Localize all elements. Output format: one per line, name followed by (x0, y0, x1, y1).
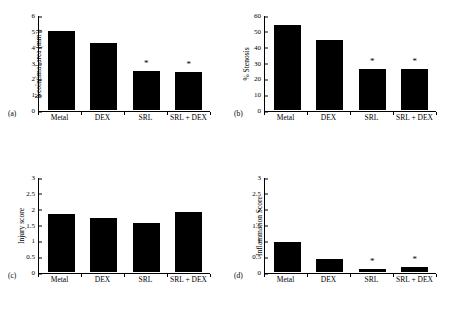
panel-a-ytick: 5 (32, 28, 40, 35)
panel-a-bar-slot: * (125, 16, 168, 110)
panel-b-xtick-label: Metal (264, 114, 307, 122)
panel-b-significance-marker: * (370, 57, 375, 66)
panel-c-plot-area: 00.511.522.53 (38, 178, 210, 274)
panel-a-ytick: 1 (32, 92, 40, 99)
panel-c-ytick: 0.5 (26, 254, 39, 261)
panel-c-ytick: 3 (32, 175, 40, 182)
panel-c-xtick-label: SRL (124, 276, 167, 284)
panel-c-bar-srl (133, 223, 160, 272)
panel-b-bar-slot: * (351, 16, 394, 110)
panel-d-ytick: 1.5 (252, 222, 265, 229)
panel-d-bar-slot (309, 178, 352, 272)
panel-a-letter: (a) (8, 110, 16, 118)
panel-d-significance-marker: * (370, 257, 375, 266)
panel-a-bar-slot (83, 16, 126, 110)
panel-b-x-tickmark (436, 112, 437, 115)
panel-c-bar-dex (90, 218, 117, 272)
panel-a-ytick: 6 (32, 13, 40, 20)
panel-a-bar-slot: * (168, 16, 211, 110)
panel-a-xtick-label: Metal (38, 114, 81, 122)
panel-a-bar-metal (48, 31, 75, 110)
panel-a-bars: ** (40, 16, 210, 110)
panel-c: Injury score 00.511.522.53 MetalDEXSRLSR… (0, 162, 226, 324)
panel-c-bar-metal (48, 214, 75, 272)
panel-d-ytick: 2.5 (252, 190, 265, 197)
panel-b-ytick: 40 (254, 44, 265, 51)
panel-a-ytick: 4 (32, 44, 40, 51)
panel-d-bar-metal (274, 242, 301, 272)
panel-b-bar-dex (316, 40, 343, 110)
panel-d-plot-area: 00.511.522.53 ** (264, 178, 436, 274)
panel-d-letter: (d) (234, 272, 243, 280)
panel-a-x-axis-labels: MetalDEXSRLSRL + DEX (38, 114, 210, 122)
panel-a-bar-srl-dex (175, 72, 202, 110)
panel-c-xtick-label: SRL + DEX (167, 276, 210, 284)
panel-b-bar-slot (309, 16, 352, 110)
panel-b-x-axis-labels: MetalDEXSRLSRL + DEX (264, 114, 436, 122)
panel-b-ylabel-wrap: % Stenosis (226, 16, 246, 112)
panel-b-bar-metal (274, 25, 301, 110)
panel-d-ytick: 3 (258, 175, 266, 182)
panel-c-ylabel-wrap: Injury score (0, 178, 20, 274)
panel-b-bar-srl-dex (401, 69, 428, 110)
panel-c-bar-slot (125, 178, 168, 272)
panel-d-bar-slot: * (351, 178, 394, 272)
panel-b-xtick-label: DEX (307, 114, 350, 122)
panel-c-xtick-label: Metal (38, 276, 81, 284)
panel-b-ytick: 50 (254, 28, 265, 35)
panel-c-bar-slot (40, 178, 83, 272)
panel-b-letter: (b) (234, 110, 243, 118)
panel-b-bars: ** (266, 16, 436, 110)
panel-b-ylabel: % Stenosis (243, 47, 251, 80)
panel-a-significance-marker: * (187, 60, 192, 69)
panel-d-bar-slot: * (394, 178, 437, 272)
panel-d-bar-srl-dex (401, 267, 428, 272)
panel-b-ytick: 10 (254, 92, 265, 99)
panel-c-letter: (c) (8, 272, 16, 280)
panel-a-bar-slot (40, 16, 83, 110)
panel-a: Neointimal area (mm²) 0123456 ** MetalDE… (0, 0, 226, 162)
panel-c-x-axis-labels: MetalDEXSRLSRL + DEX (38, 276, 210, 284)
panel-a-bar-dex (90, 43, 117, 110)
panel-d-ytick: 1 (258, 238, 266, 245)
panel-a-bar-srl (133, 71, 160, 110)
panel-c-ytick: 1 (32, 238, 40, 245)
panel-d-ytick: 0.5 (252, 254, 265, 261)
panel-b-ytick: 60 (254, 13, 265, 20)
panel-a-ytick: 2 (32, 76, 40, 83)
panel-d-x-tickmark (436, 274, 437, 277)
panel-a-plot-area: 0123456 ** (38, 16, 210, 112)
panel-d-bars: ** (266, 178, 436, 272)
panel-d-significance-marker: * (413, 255, 418, 264)
panel-c-ylabel: Injury score (18, 208, 26, 244)
panel-b-bar-srl (359, 69, 386, 110)
panel-b-bar-slot (266, 16, 309, 110)
panel-c-bar-slot (83, 178, 126, 272)
panel-d-bar-dex (316, 259, 343, 272)
panel-c-bars (40, 178, 210, 272)
panel-b-plot-area: 0102030405060 ** (264, 16, 436, 112)
panel-c-ytick: 1.5 (26, 222, 39, 229)
panel-c-xtick-label: DEX (81, 276, 124, 284)
panel-d-x-axis-labels: MetalDEXSRLSRL + DEX (264, 276, 436, 284)
panel-b-ytick: 20 (254, 76, 265, 83)
panel-c-bar-srl-dex (175, 212, 202, 272)
panel-d-xtick-label: SRL (350, 276, 393, 284)
panel-b: % Stenosis 0102030405060 ** MetalDEXSRLS… (226, 0, 452, 162)
panel-d-bar-slot (266, 178, 309, 272)
panel-d-xtick-label: Metal (264, 276, 307, 284)
panel-a-x-tickmark (210, 112, 211, 115)
panel-b-xtick-label: SRL (350, 114, 393, 122)
panel-c-ytick: 2 (32, 206, 40, 213)
panel-d-bar-srl (359, 269, 386, 272)
panel-a-xtick-label: SRL (124, 114, 167, 122)
panel-c-x-tickmark (210, 274, 211, 277)
figure-panel-grid: Neointimal area (mm²) 0123456 ** MetalDE… (0, 0, 452, 324)
panel-d-ytick: 2 (258, 206, 266, 213)
panel-a-significance-marker: * (144, 59, 149, 68)
panel-b-bar-slot: * (394, 16, 437, 110)
panel-a-xtick-label: SRL + DEX (167, 114, 210, 122)
panel-c-bar-slot (168, 178, 211, 272)
panel-b-xtick-label: SRL + DEX (393, 114, 436, 122)
panel-a-ytick: 3 (32, 60, 40, 67)
